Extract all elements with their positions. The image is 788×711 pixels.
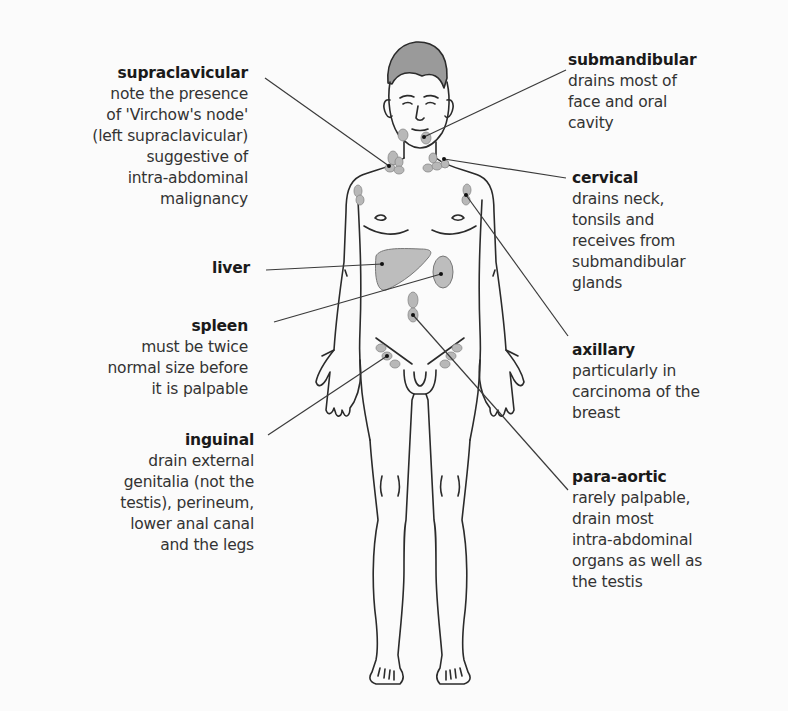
left-leg [370,394,414,684]
label-title: para-aortic [572,467,702,488]
label-inguinal: inguinal drain external genitalia (not t… [120,430,254,556]
label-submandibular: submandibular drains most of face and or… [568,50,696,134]
liver-organ [375,249,430,291]
label-description: drains neck, tonsils and receives from s… [572,189,686,294]
label-description: must be twice normal size before it is p… [107,337,248,400]
label-title: inguinal [120,430,254,451]
label-description: particularly in carcinoma of the breast [572,361,700,424]
label-title: submandibular [568,50,696,71]
label-description: note the presence of 'Virchow's node' (l… [92,84,248,210]
label-spleen: spleen must be twice normal size before … [107,316,248,400]
label-para-aortic: para-aortic rarely palpable, drain most … [572,467,702,593]
label-cervical: cervical drains neck, tonsils and receiv… [572,168,686,294]
hair [388,42,447,88]
label-description: drains most of face and oral cavity [568,71,696,134]
label-title: cervical [572,168,686,189]
label-title: spleen [107,316,248,337]
label-title: liver [212,258,250,279]
label-title: supraclavicular [92,63,248,84]
label-description: drain external genitalia (not the testis… [120,451,254,556]
label-title: axillary [572,340,700,361]
label-axillary: axillary particularly in carcinoma of th… [572,340,700,424]
left-hand [316,350,361,416]
right-hand [479,350,524,416]
spleen-organ [433,256,453,288]
head [389,82,449,148]
label-description: rarely palpable, drain most intra-abdomi… [572,488,702,593]
label-supraclavicular: supraclavicular note the presence of 'Vi… [92,63,248,210]
right-leg [426,394,470,684]
label-liver: liver [212,258,250,279]
lymph-node-diagram: supraclavicular note the presence of 'Vi… [0,0,788,711]
genitals [404,370,436,394]
leader-lines [265,70,568,490]
